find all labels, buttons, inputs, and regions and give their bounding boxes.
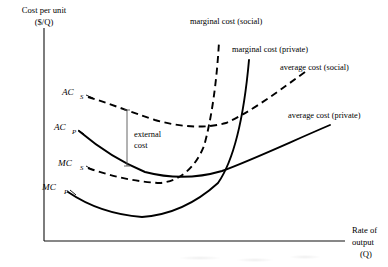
cost-curve-figure: Cost per unit ($/Q) Rate of output (Q) e… bbox=[0, 0, 388, 267]
curve-tag-acp-sub: P bbox=[71, 128, 76, 135]
x-axis-label-line2: output bbox=[352, 237, 375, 247]
curve-average-cost-private bbox=[79, 125, 330, 177]
curve-tag-mcp-base: MC bbox=[41, 182, 57, 192]
curve-tag-acs-sub: S bbox=[80, 93, 84, 100]
external-cost-label-line2: cost bbox=[134, 141, 148, 150]
label-marginal-cost-private: marginal cost (private) bbox=[232, 45, 308, 54]
label-average-cost-private: average cost (private) bbox=[288, 111, 361, 120]
x-axis-label-line3: (Q) bbox=[360, 249, 372, 259]
curve-tag-mcp-sub: P bbox=[63, 188, 68, 195]
external-cost-label-line1: external bbox=[134, 130, 162, 139]
y-axis-label-line2: ($/Q) bbox=[35, 17, 54, 27]
y-axis-label-line1: Cost per unit bbox=[22, 5, 67, 15]
x-axis-label: Rate of output (Q) bbox=[352, 225, 377, 259]
curve-average-cost-social bbox=[88, 72, 305, 127]
external-cost-bracket bbox=[124, 110, 130, 166]
axes-group bbox=[44, 28, 345, 241]
curve-tag-acp-base: AC bbox=[53, 122, 67, 132]
curve-tag-mcs-sub: S bbox=[80, 164, 84, 171]
external-cost-label: external cost bbox=[134, 130, 162, 150]
curve-tag-acs-base: AC bbox=[61, 87, 75, 97]
curve-tag-acp: AC P bbox=[53, 122, 84, 135]
label-average-cost-social: average cost (social) bbox=[280, 63, 349, 72]
label-marginal-cost-social: marginal cost (social) bbox=[190, 17, 263, 26]
chart-svg: Cost per unit ($/Q) Rate of output (Q) e… bbox=[0, 0, 388, 267]
y-axis-label: Cost per unit ($/Q) bbox=[22, 5, 67, 27]
x-axis-label-line1: Rate of bbox=[352, 225, 377, 235]
curve-tag-mcs: MC S bbox=[57, 158, 93, 171]
curve-tag-mcs-base: MC bbox=[57, 158, 73, 168]
curve-marginal-cost-social bbox=[88, 42, 219, 183]
